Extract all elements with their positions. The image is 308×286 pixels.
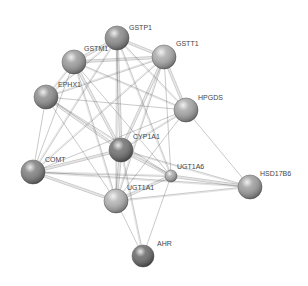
node-ahr[interactable]: AHR	[132, 240, 172, 267]
node-label: GSTM1	[84, 45, 108, 52]
node-gstp1[interactable]: GSTP1	[105, 24, 152, 50]
node-shading	[104, 189, 128, 213]
node-label: COMT	[45, 156, 66, 163]
node-label: GSTT1	[176, 40, 199, 47]
node-shading	[109, 138, 133, 162]
edge-gstp1-hpgds[interactable]	[117, 38, 187, 111]
node-shading	[152, 45, 176, 69]
node-shading	[34, 85, 58, 109]
node-shading	[165, 170, 177, 182]
node-label: EPHX1	[58, 81, 81, 88]
edge-hpgds-hsd17b6[interactable]	[186, 110, 250, 187]
node-label: UGT1A1	[127, 184, 154, 191]
node-layer: GSTP1GSTM1GSTT1EPHX1HPGDSCYP1A1UGT1A6COM…	[21, 24, 291, 267]
node-label: UGT1A6	[177, 163, 204, 170]
node-label: CYP1A1	[133, 133, 160, 140]
node-shading	[21, 160, 45, 184]
node-shading	[132, 245, 154, 267]
node-shading	[62, 50, 86, 74]
node-gstt1[interactable]: GSTT1	[152, 40, 199, 69]
node-label: GSTP1	[129, 24, 152, 31]
node-hsd17b6[interactable]: HSD17B6	[238, 170, 291, 199]
edge-ephx1-ugt1a1[interactable]	[46, 97, 116, 201]
network-diagram: GSTP1GSTM1GSTT1EPHX1HPGDSCYP1A1UGT1A6COM…	[0, 0, 308, 286]
node-label: HSD17B6	[260, 170, 291, 177]
node-label: AHR	[157, 240, 172, 247]
node-shading	[105, 26, 129, 50]
node-label: HPGDS	[198, 94, 223, 101]
node-shading	[174, 98, 198, 122]
node-shading	[238, 175, 262, 199]
